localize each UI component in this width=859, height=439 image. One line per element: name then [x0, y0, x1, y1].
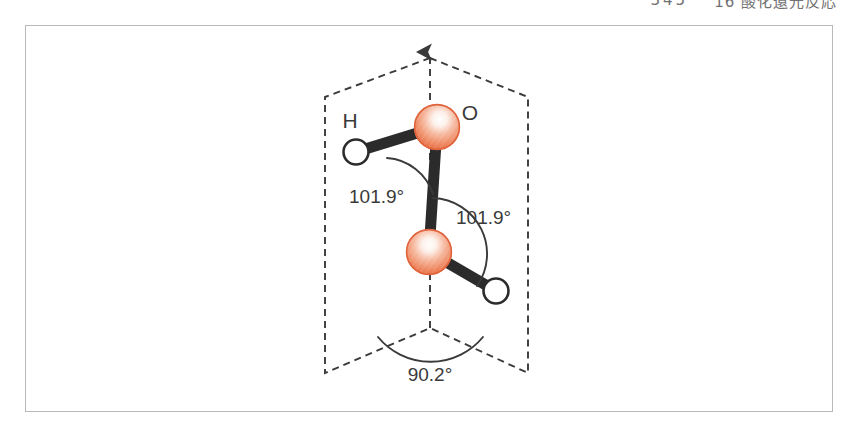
page-running-header: 345 16 酸化還元反応: [651, 0, 838, 9]
figure-frame: [25, 25, 833, 412]
header-page-number: 345: [651, 0, 689, 9]
header-running-title: 16 酸化還元反応: [714, 0, 837, 11]
